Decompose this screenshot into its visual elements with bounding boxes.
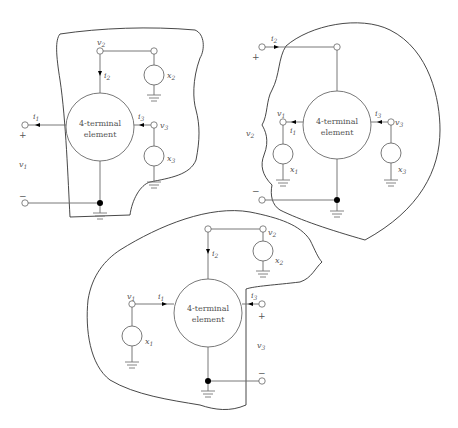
label-v2: v2 (246, 129, 255, 139)
label-i3: i3 (138, 112, 145, 122)
label-x2: x2 (275, 256, 284, 266)
element-label-line2: element (192, 315, 226, 324)
label-x2: x2 (167, 71, 176, 81)
label-plus: + (258, 311, 266, 321)
label-x1: x1 (290, 165, 298, 175)
label-v2: v2 (268, 228, 277, 238)
arrow-i1-icon (35, 123, 40, 127)
ground-icon (147, 182, 161, 188)
ground-icon (384, 180, 398, 186)
label-x3: x3 (167, 154, 176, 164)
element-label-line2: element (321, 128, 355, 137)
label-i1: i1 (158, 292, 164, 302)
terminal-port1[interactable] (280, 119, 286, 125)
ground-icon (147, 95, 161, 101)
panel-bottom: 4-terminal element i2 v2 x2 v1 i1 x1 (87, 211, 322, 410)
terminal-port1-plus[interactable] (22, 122, 28, 128)
arrow-i2-icon (98, 71, 102, 76)
element-label-line1: 4-terminal (79, 119, 122, 128)
panel-top-left: 4-terminal element i1 + v1 − i2 v2 x2 (19, 28, 203, 219)
ground-icon (330, 211, 344, 217)
arrow-i3-icon (377, 120, 382, 124)
label-plus: + (19, 130, 27, 140)
ground-node (97, 200, 103, 206)
label-v3: v3 (395, 118, 404, 128)
circuit-diagram: 4-terminal element i1 + v1 − i2 v2 x2 (0, 0, 458, 428)
label-x3: x3 (398, 165, 407, 175)
terminal-port2-plus[interactable] (259, 44, 265, 50)
label-i3: i3 (375, 109, 382, 119)
ground-icon (256, 271, 270, 277)
label-v1: v1 (19, 160, 27, 170)
source-x2 (253, 241, 273, 261)
element-label-line1: 4-terminal (316, 117, 359, 126)
terminal-port3-minus[interactable] (259, 378, 265, 384)
label-plus: + (252, 52, 260, 62)
ground-icon (125, 362, 139, 368)
ground-icon (201, 391, 215, 397)
four-terminal-element (174, 279, 242, 347)
arrow-i3-icon (139, 123, 144, 127)
label-i1: i1 (33, 112, 39, 122)
label-i3: i3 (251, 291, 258, 301)
terminal-port2[interactable] (97, 48, 103, 54)
arrow-i3-icon (248, 302, 253, 306)
label-i2: i2 (271, 34, 278, 44)
terminal-port2-minus[interactable] (259, 197, 265, 203)
label-minus: − (258, 368, 266, 378)
arrow-i1-icon (291, 120, 296, 124)
label-i2: i2 (212, 249, 219, 259)
arrow-i1-icon (162, 302, 167, 306)
element-label-line1: 4-terminal (187, 304, 230, 313)
label-v3: v3 (160, 121, 169, 131)
panel-top-right: 4-terminal element i2 + v2 − v1 i1 x1 (246, 23, 440, 240)
terminal-port3[interactable] (388, 119, 394, 125)
source-x2 (144, 65, 164, 85)
ground-node (205, 378, 211, 384)
terminal-port3-plus[interactable] (259, 301, 265, 307)
label-v1: v1 (277, 109, 285, 119)
element-label-line2: element (84, 130, 118, 139)
label-v2: v2 (97, 38, 106, 48)
source-x1 (273, 144, 293, 164)
arrow-i2-icon (206, 249, 210, 254)
source-x3 (381, 143, 401, 163)
arrow-i2-icon (274, 45, 279, 49)
label-minus: − (252, 186, 260, 196)
label-i1: i1 (290, 126, 296, 136)
terminal-port3[interactable] (151, 122, 157, 128)
ground-icon (93, 213, 107, 219)
label-v1: v1 (127, 292, 135, 302)
ground-icon (276, 180, 290, 186)
label-i2: i2 (104, 71, 111, 81)
label-v3: v3 (257, 341, 266, 351)
label-x1: x1 (145, 337, 153, 347)
terminal-port1-minus[interactable] (22, 200, 28, 206)
source-x1 (122, 326, 142, 346)
terminal-port2[interactable] (205, 226, 211, 232)
source-x3 (144, 146, 164, 166)
ground-node (334, 197, 340, 203)
